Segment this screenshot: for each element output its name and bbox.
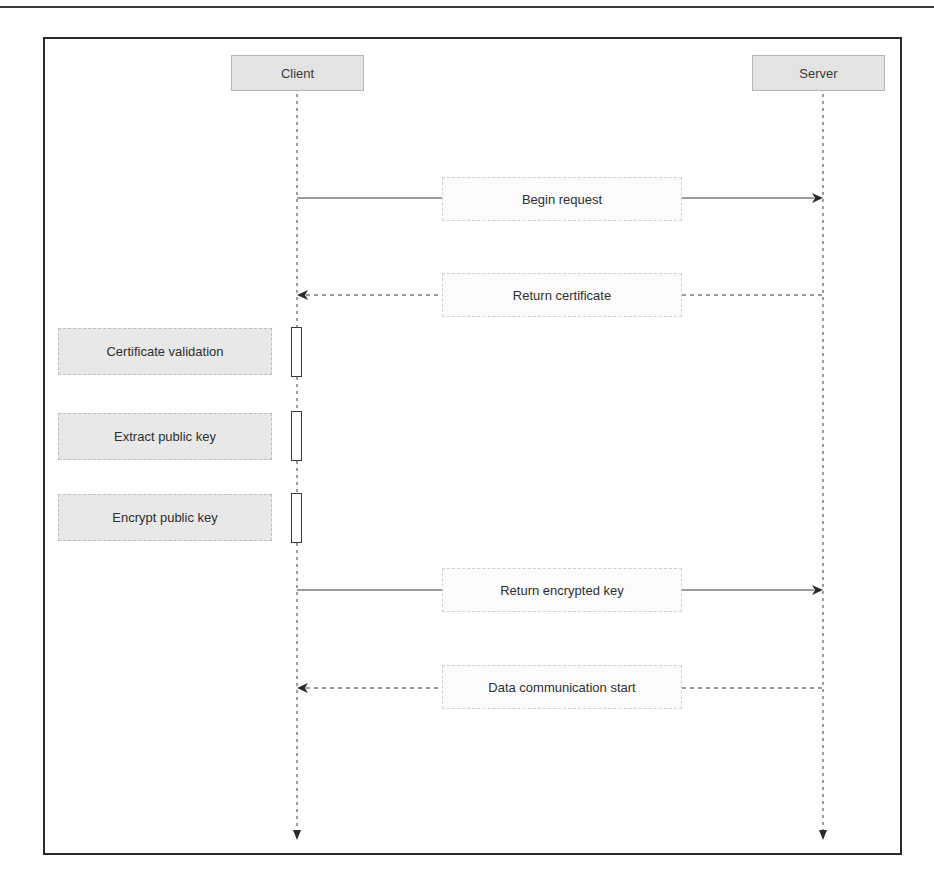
participant-client: Client <box>231 55 364 91</box>
client-lifeline-end-arrow-icon <box>293 830 301 840</box>
message-label-return-encrypted-key: Return encrypted key <box>442 568 682 612</box>
message-label-begin-request: Begin request <box>442 177 682 221</box>
activation-bar-certificate-validation <box>291 327 302 377</box>
message-text: Data communication start <box>488 680 635 695</box>
client-lifeline <box>293 94 301 840</box>
message-text: Begin request <box>522 192 602 207</box>
message-label-return-certificate: Return certificate <box>442 273 682 317</box>
process-text: Encrypt public key <box>112 510 218 525</box>
participant-server: Server <box>752 55 885 91</box>
process-certificate-validation: Certificate validation <box>58 328 272 375</box>
server-lifeline <box>819 94 827 840</box>
activation-bar-encrypt-public-key <box>291 493 302 543</box>
server-lifeline-end-arrow-icon <box>819 830 827 840</box>
message-label-data-communication-start: Data communication start <box>442 665 682 709</box>
process-extract-public-key: Extract public key <box>58 413 272 460</box>
message-text: Return encrypted key <box>500 583 624 598</box>
participant-server-label: Server <box>799 66 837 81</box>
activation-bar-extract-public-key <box>291 411 302 461</box>
process-encrypt-public-key: Encrypt public key <box>58 494 272 541</box>
message-text: Return certificate <box>513 288 611 303</box>
process-text: Extract public key <box>114 429 216 444</box>
process-text: Certificate validation <box>106 344 223 359</box>
participant-client-label: Client <box>281 66 314 81</box>
